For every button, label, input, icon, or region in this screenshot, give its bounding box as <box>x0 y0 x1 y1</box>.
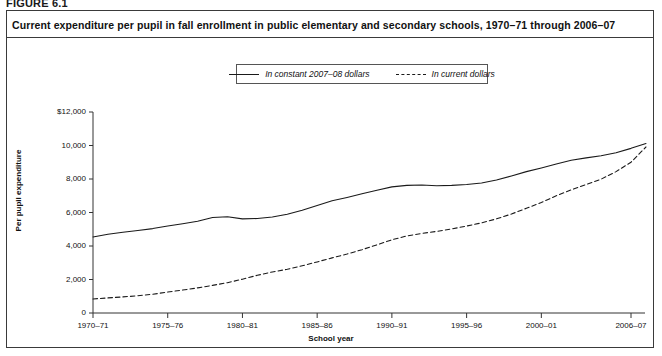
y-tick-label: $12,000 <box>18 107 86 116</box>
y-axis-title: Per pupil expenditure <box>14 141 23 241</box>
chart-plot-area: $12,00010,0008,0006,0004,0002,0000 1970–… <box>0 0 662 356</box>
x-tick-label: 2000–01 <box>511 321 571 330</box>
chart-canvas <box>0 0 662 356</box>
x-tick-label: 2006–07 <box>601 321 661 330</box>
y-tick-label: 6,000 <box>18 208 86 217</box>
y-tick-label: 8,000 <box>18 174 86 183</box>
series-line-constant-dollars <box>93 143 646 236</box>
x-tick-label: 1985–86 <box>287 321 347 330</box>
x-tick-label: 1990–91 <box>362 321 422 330</box>
y-tick-label: 2,000 <box>18 275 86 284</box>
x-tick-label: 1980–81 <box>212 321 272 330</box>
x-tick-label: 1975–76 <box>138 321 198 330</box>
y-tick-label: 10,000 <box>18 141 86 150</box>
y-tick-label: 0 <box>18 308 86 317</box>
x-tick-label: 1995–96 <box>437 321 497 330</box>
series-line-current-dollars <box>93 147 646 299</box>
x-axis-title: School year <box>0 334 662 343</box>
y-tick-label: 4,000 <box>18 241 86 250</box>
x-tick-label: 1970–71 <box>63 321 123 330</box>
